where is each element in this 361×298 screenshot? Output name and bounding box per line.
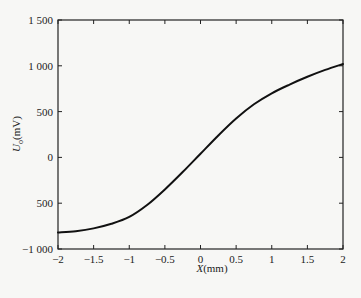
x-tick-label: 1.5 — [301, 253, 315, 265]
y-tick-label: 500 — [37, 106, 54, 118]
y-tick-label: 500 — [37, 197, 54, 209]
x-tick-label: −0.5 — [155, 253, 175, 265]
y-axis-ticks: −1 00050005001 0001 500 — [22, 14, 343, 255]
x-tick-label: −1 — [123, 253, 135, 265]
x-axis-title: X(mm) — [195, 262, 228, 275]
y-tick-label: −1 000 — [22, 243, 53, 255]
x-tick-label: 2 — [340, 253, 346, 265]
x-tick-label: −1.5 — [84, 253, 104, 265]
y-tick-label: 1 000 — [28, 60, 53, 72]
line-chart: −2−1.5−1−0.500.511.52 −1 00050005001 000… — [0, 0, 361, 298]
y-tick-label: 1 500 — [28, 14, 53, 26]
x-tick-label: 1 — [269, 253, 275, 265]
plot-frame — [58, 20, 343, 249]
x-tick-label: −2 — [52, 253, 64, 265]
x-tick-label: 0.5 — [229, 253, 243, 265]
y-axis-title: Uo(mV) — [10, 116, 25, 152]
y-tick-label: 0 — [48, 151, 54, 163]
data-line-uo — [58, 64, 343, 233]
plot-border — [58, 20, 343, 249]
